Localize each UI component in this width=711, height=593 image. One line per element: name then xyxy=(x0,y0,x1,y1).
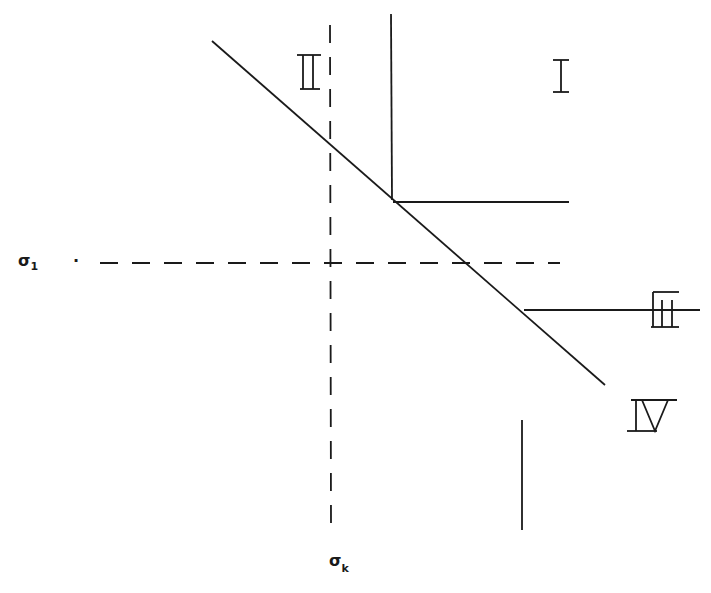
diagonal-boundary-line xyxy=(212,41,605,385)
region-label-iii: III xyxy=(0,0,679,327)
sigma-1-tick: · xyxy=(73,251,79,270)
region-label-iv: IV xyxy=(0,0,677,431)
sigma-k-dashed-line xyxy=(330,25,331,525)
region-label-ii: II xyxy=(0,0,321,89)
region-label-i: I xyxy=(0,0,569,92)
stress-region-diagram: I II III IV σ1 · σk xyxy=(0,0,711,593)
sigma-1-label: σ1 xyxy=(18,251,38,273)
sigma-k-label: σk xyxy=(329,551,349,575)
region-i-vertical-boundary xyxy=(391,14,392,200)
